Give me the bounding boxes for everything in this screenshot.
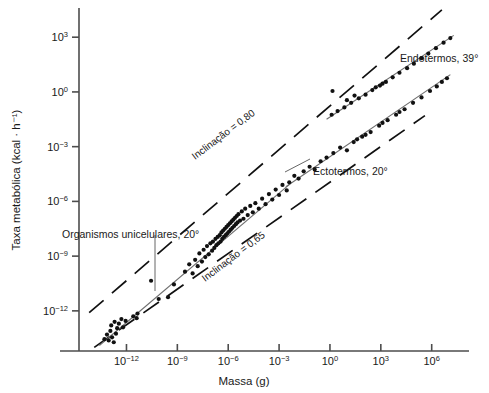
data-point — [263, 202, 267, 206]
data-point — [109, 323, 113, 327]
ectotherm-leader-line — [285, 159, 310, 172]
data-point — [121, 325, 125, 329]
data-point — [330, 89, 334, 93]
data-point — [363, 93, 367, 97]
x-tick-label: 106 — [423, 354, 439, 367]
x-tick-label: 10−3 — [269, 354, 290, 367]
data-point — [253, 201, 257, 205]
data-point — [274, 187, 278, 191]
data-point — [380, 82, 384, 86]
data-point — [352, 93, 356, 97]
data-point — [205, 244, 209, 248]
data-point — [308, 165, 312, 169]
x-tick-label: 10−9 — [167, 354, 188, 367]
y-axis-ticks — [72, 37, 79, 311]
data-point — [196, 264, 200, 268]
data-point — [108, 329, 112, 333]
annotation-ectotermos: Ectotermos, 20° — [313, 165, 388, 177]
data-point — [419, 95, 423, 99]
data-point — [114, 332, 118, 336]
data-point — [200, 260, 204, 264]
x-tick-label: 10−6 — [218, 354, 239, 367]
data-point — [397, 71, 401, 75]
data-point — [277, 193, 281, 197]
x-tick-label: 10−12 — [114, 354, 139, 367]
data-point — [248, 204, 252, 208]
data-point — [193, 258, 197, 262]
x-axis-tick-labels: 10−1210−910−610−3100103106 — [114, 354, 440, 367]
x-axis-title: Massa (g) — [218, 375, 269, 387]
data-point — [411, 101, 415, 105]
data-point — [119, 317, 123, 321]
data-point — [296, 176, 300, 180]
data-point — [285, 188, 289, 192]
data-point — [257, 207, 261, 211]
data-point — [149, 279, 153, 283]
data-point — [435, 84, 439, 88]
data-point — [172, 282, 176, 286]
data-point — [135, 311, 139, 315]
data-point — [331, 151, 335, 155]
data-point — [251, 210, 255, 214]
data-point — [370, 88, 374, 92]
data-point — [386, 118, 390, 122]
data-point — [113, 320, 117, 324]
data-point — [105, 332, 109, 336]
data-point — [338, 145, 342, 149]
data-point — [441, 41, 445, 45]
data-point — [345, 98, 349, 102]
unicellular-line — [99, 183, 291, 345]
data-point — [405, 66, 409, 70]
data-point — [260, 197, 264, 201]
data-point — [349, 101, 353, 105]
y-axis-tick-labels: 10310010−310−610−910−12 — [43, 30, 68, 317]
y-tick-label: 103 — [52, 30, 68, 43]
data-point — [345, 148, 349, 152]
data-point — [302, 169, 306, 173]
data-point — [397, 110, 401, 114]
data-point — [117, 322, 121, 326]
data-point — [191, 271, 195, 275]
data-point — [402, 107, 406, 111]
y-tick-label: 10−6 — [47, 194, 68, 207]
data-point — [115, 326, 119, 330]
data-point — [246, 213, 250, 217]
data-point — [369, 130, 373, 134]
data-point — [107, 338, 111, 342]
data-point — [324, 156, 328, 160]
data-point — [330, 113, 334, 117]
data-point — [445, 76, 449, 80]
data-point — [183, 270, 187, 274]
data-point — [391, 75, 395, 79]
data-point — [287, 180, 291, 184]
data-point — [243, 207, 247, 211]
data-point — [374, 85, 378, 89]
data-point — [440, 80, 444, 84]
data-point — [280, 183, 284, 187]
data-point — [102, 337, 106, 341]
data-point — [319, 159, 323, 163]
data-point — [157, 297, 161, 301]
data-point — [240, 209, 244, 213]
annotation-inclinacao-065: Inclinação = 0,65 — [200, 229, 268, 284]
annotation-endotermos: Endotermos, 39° — [400, 52, 478, 64]
data-point — [187, 262, 191, 266]
data-point — [352, 140, 356, 144]
data-point — [380, 121, 384, 125]
y-axis-title: Taxa metabólica (kcal · h⁻¹) — [10, 109, 22, 250]
data-point — [394, 113, 398, 117]
data-point — [428, 89, 432, 93]
data-point — [207, 252, 211, 256]
data-point — [202, 248, 206, 252]
data-point — [355, 137, 359, 141]
y-tick-label: 10−12 — [43, 304, 68, 317]
data-point — [124, 319, 128, 323]
data-point — [363, 133, 367, 137]
data-point — [357, 96, 361, 100]
metabolic-rate-scatter-chart: 10310010−310−610−910−12 10−1210−910−610−… — [0, 0, 489, 393]
x-tick-label: 103 — [373, 354, 389, 367]
data-point — [241, 217, 245, 221]
data-point — [377, 124, 381, 128]
data-point — [203, 255, 207, 259]
chart-svg: 10310010−310−610−910−12 10−1210−910−610−… — [0, 0, 489, 393]
